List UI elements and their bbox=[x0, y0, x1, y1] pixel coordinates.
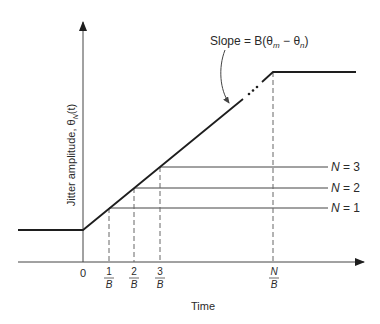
svg-text:N: N bbox=[270, 266, 278, 277]
x-tick-2-over-b: 2 B bbox=[129, 266, 139, 290]
slope-leader-arrow bbox=[221, 50, 229, 103]
jitter-curve-top bbox=[262, 72, 356, 82]
svg-text:B: B bbox=[131, 279, 138, 290]
slope-annotation: Slope = B(θm − θn) bbox=[210, 34, 309, 50]
x-tick-0: 0 bbox=[80, 267, 86, 279]
level-label-n3: N = 3 bbox=[331, 160, 360, 174]
svg-text:2: 2 bbox=[131, 266, 137, 277]
x-tick-1-over-b: 1 B bbox=[104, 266, 114, 290]
level-label-n2: N = 2 bbox=[331, 181, 360, 195]
level-label-n1: N = 1 bbox=[331, 201, 360, 215]
svg-text:B: B bbox=[271, 279, 278, 290]
x-axis-title: Time bbox=[191, 300, 215, 312]
svg-text:B: B bbox=[106, 279, 113, 290]
jitter-curve-baseline bbox=[18, 99, 243, 230]
y-axis-title: Jitter amplitude, θN(t) bbox=[65, 104, 79, 206]
ellipsis-dots bbox=[248, 86, 259, 96]
svg-text:3: 3 bbox=[157, 266, 163, 277]
jitter-amplitude-diagram: Slope = B(θm − θn) N = 3 N = 2 N = 1 0 1… bbox=[0, 0, 380, 324]
x-tick-3-over-b: 3 B bbox=[155, 266, 165, 290]
svg-text:1: 1 bbox=[106, 266, 112, 277]
x-tick-n-over-b: N B bbox=[269, 266, 279, 290]
svg-text:B: B bbox=[157, 279, 164, 290]
